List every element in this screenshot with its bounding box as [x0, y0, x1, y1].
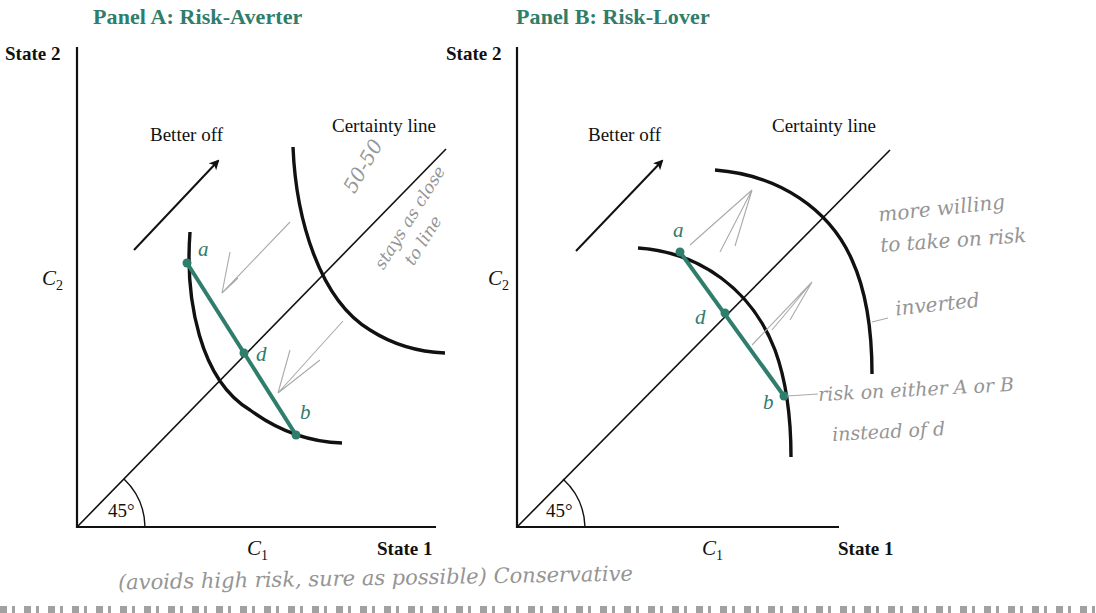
panel-b-point-b-label: b — [763, 390, 774, 415]
panel-b-better-off-label: Better off — [588, 124, 661, 146]
panel-b-point-a-label: a — [673, 218, 684, 243]
panel-b-c1-var: C — [702, 536, 716, 560]
panel-a-point-d — [240, 349, 249, 358]
panel-a-c1-var: C — [247, 536, 261, 560]
panel-b-c2-var: C — [488, 266, 502, 290]
panel-b-certainty-line — [517, 150, 890, 527]
panel-a-point-d-label: d — [256, 342, 267, 367]
panel-a-point-b-label: b — [300, 400, 311, 425]
panel-b-point-d-label: d — [695, 305, 706, 330]
panel-a-point-a-label: a — [198, 237, 209, 262]
panel-a-certainty-line-label: Certainty line — [332, 115, 436, 137]
panel-b-c2-label: C2 — [488, 266, 509, 294]
panel-a-c2-sub: 2 — [56, 278, 63, 293]
panel-a-c1-label: C1 — [247, 536, 268, 564]
panel-b-c1-sub: 1 — [716, 548, 723, 563]
panel-a-c2-var: C — [42, 266, 56, 290]
panel-b-indifference-curve-2 — [715, 170, 872, 374]
panel-b-better-off-arrow — [576, 161, 662, 251]
figure: Panel A: Risk-Averter Panel B: Risk-Love… — [0, 0, 1096, 613]
panel-a-better-off-label: Better off — [150, 124, 223, 146]
cutoff-caption-line — [0, 606, 1096, 613]
panel-a-x-axis-label: State 1 — [377, 538, 432, 560]
panel-a-angle-label: 45° — [108, 500, 135, 522]
panel-a-point-b — [292, 431, 301, 440]
panel-b-pencil-marks — [690, 190, 888, 396]
panel-b-angle-label: 45° — [546, 500, 573, 522]
panel-b-c1-label: C1 — [702, 536, 723, 564]
panel-a-c2-label: C2 — [42, 266, 63, 294]
panel-b-indifference-curve-1 — [638, 248, 791, 457]
panel-b-x-axis-label: State 1 — [838, 538, 893, 560]
panel-a-pencil-arrows — [222, 222, 343, 393]
panel-a-certainty-line — [77, 149, 446, 527]
panel-a-y-axis-label: State 2 — [5, 43, 60, 65]
panel-b-point-a — [676, 248, 685, 257]
panel-b-certainty-line-label: Certainty line — [772, 115, 876, 137]
panel-a-point-a — [183, 259, 192, 268]
panel-b-y-axis-label: State 2 — [446, 43, 501, 65]
panel-b-c2-sub: 2 — [502, 278, 509, 293]
panel-a-c1-sub: 1 — [261, 548, 268, 563]
panel-b-point-d — [721, 309, 730, 318]
